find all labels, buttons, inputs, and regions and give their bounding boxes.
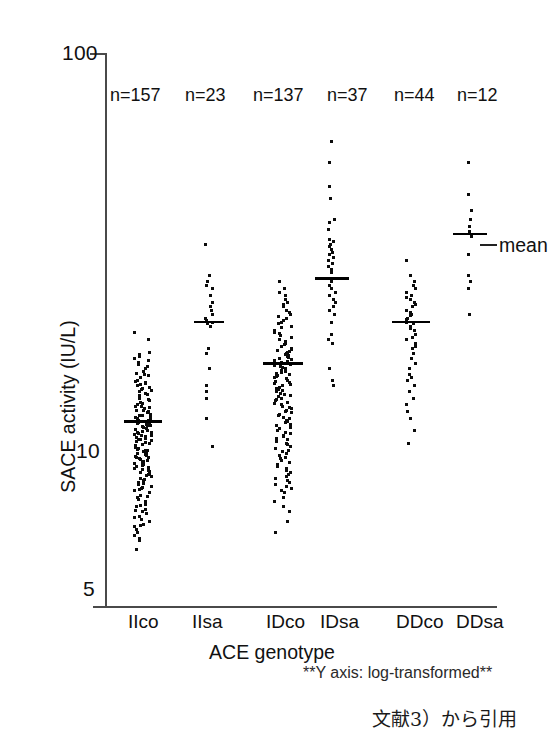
data-point xyxy=(288,481,291,484)
data-point xyxy=(134,380,137,383)
data-point xyxy=(329,197,332,200)
data-point xyxy=(406,379,409,382)
data-point xyxy=(289,383,292,386)
mean-bar-iico xyxy=(124,420,162,423)
data-point xyxy=(211,445,214,448)
data-point xyxy=(467,274,470,277)
data-point xyxy=(468,313,471,316)
data-point xyxy=(146,495,149,498)
data-point xyxy=(146,459,149,462)
sample-size-label-idco: n=137 xyxy=(253,86,304,104)
data-point xyxy=(414,345,417,348)
data-point xyxy=(147,338,150,341)
data-point xyxy=(283,343,286,346)
data-point xyxy=(140,434,143,437)
data-point xyxy=(409,314,412,317)
data-point xyxy=(148,442,151,445)
data-point xyxy=(278,454,281,457)
data-point xyxy=(205,417,208,420)
data-point xyxy=(133,331,136,334)
data-point xyxy=(328,161,331,164)
data-point xyxy=(135,409,138,412)
data-point xyxy=(470,209,473,212)
data-point xyxy=(328,294,331,297)
data-point xyxy=(467,193,470,196)
data-point xyxy=(280,397,283,400)
data-point xyxy=(274,447,277,450)
data-point xyxy=(332,240,335,243)
data-point xyxy=(285,475,288,478)
data-point xyxy=(137,483,140,486)
source-citation: 文献3）から引用 xyxy=(372,704,517,731)
data-point xyxy=(280,345,283,348)
data-point xyxy=(136,531,139,534)
data-point xyxy=(149,413,152,416)
data-point xyxy=(468,225,471,228)
data-point xyxy=(273,382,276,385)
data-point xyxy=(211,287,214,290)
data-point xyxy=(275,440,278,443)
data-point xyxy=(288,373,291,376)
mean-leader-line xyxy=(480,244,497,246)
data-point xyxy=(133,467,136,470)
data-point xyxy=(285,469,288,472)
data-point xyxy=(276,429,279,432)
data-point xyxy=(135,505,138,508)
data-point xyxy=(149,424,152,427)
data-point xyxy=(333,218,336,221)
data-point xyxy=(150,434,153,437)
data-point xyxy=(290,358,293,361)
data-point xyxy=(148,399,151,402)
data-point xyxy=(410,357,413,360)
data-point xyxy=(133,534,136,537)
data-point xyxy=(411,347,414,350)
data-point xyxy=(274,477,277,480)
data-point xyxy=(409,327,412,330)
data-point xyxy=(204,243,207,246)
data-point xyxy=(281,405,284,408)
data-point xyxy=(282,496,285,499)
data-point xyxy=(283,491,286,494)
data-point xyxy=(133,489,136,492)
data-point xyxy=(139,494,142,497)
data-point xyxy=(205,284,208,287)
data-point xyxy=(136,384,139,387)
data-point xyxy=(332,384,335,387)
data-point xyxy=(287,449,290,452)
data-point xyxy=(138,355,141,358)
data-point xyxy=(328,367,331,370)
data-point xyxy=(414,303,417,306)
data-point xyxy=(139,376,142,379)
data-point xyxy=(414,362,417,365)
data-point xyxy=(284,410,287,413)
log-transform-footnote: **Y axis: log-transformed** xyxy=(303,664,492,682)
data-point xyxy=(205,384,208,387)
mean-bar-ddco xyxy=(392,321,430,324)
data-point xyxy=(328,185,331,188)
data-point xyxy=(280,326,283,329)
data-point xyxy=(275,375,278,378)
data-point xyxy=(405,403,408,406)
data-point xyxy=(413,429,416,432)
data-point xyxy=(145,474,148,477)
data-point xyxy=(327,338,330,341)
data-point xyxy=(330,271,333,274)
data-point xyxy=(328,253,331,256)
data-point xyxy=(409,274,412,277)
data-point xyxy=(139,438,142,441)
x-tick-label-idco: IDco xyxy=(266,612,305,631)
data-point xyxy=(279,334,282,337)
data-point xyxy=(138,539,141,542)
x-axis-title: ACE genotype xyxy=(0,641,560,664)
data-point xyxy=(208,274,211,277)
data-point xyxy=(331,379,334,382)
data-point xyxy=(139,504,142,507)
sample-size-label-iico: n=157 xyxy=(110,86,161,104)
x-tick-label-iisa: IIsa xyxy=(192,612,223,631)
mean-bar-iisa xyxy=(194,321,224,324)
data-point xyxy=(469,218,472,221)
data-point xyxy=(209,305,212,308)
data-point xyxy=(332,305,335,308)
data-point xyxy=(289,432,292,435)
data-point xyxy=(282,505,285,508)
